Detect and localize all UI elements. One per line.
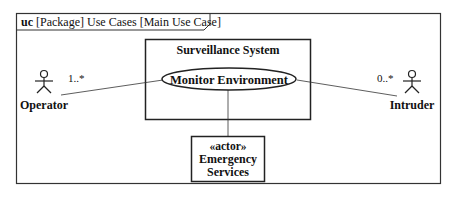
actor-block-label-line1: Emergency: [199, 152, 257, 166]
actor-leg-icon: [37, 86, 44, 93]
multiplicity-intruder: 0..*: [377, 72, 394, 84]
frame-title: uc[Package] Use Cases [Main Use Case]: [21, 15, 221, 29]
multiplicity-operator: 1..*: [68, 72, 85, 84]
frame-kind: uc: [21, 15, 34, 29]
system-boundary-label: Surveillance System: [177, 43, 280, 57]
frame-title-text: [Package] Use Cases [Main Use Case]: [36, 15, 221, 29]
use-case-diagram: uc[Package] Use Cases [Main Use Case] Su…: [0, 0, 453, 204]
actor-leg-icon: [412, 86, 419, 93]
actor-leg-icon: [44, 86, 51, 93]
actor-head-icon: [41, 71, 48, 78]
actor-intruder-label: Intruder: [390, 98, 435, 112]
actor-block-label-line2: Services: [207, 165, 249, 179]
actor-head-icon: [409, 71, 416, 78]
actor-operator[interactable]: [35, 71, 53, 94]
actor-operator-label: Operator: [20, 98, 69, 112]
use-case-label: Monitor Environment: [170, 73, 289, 87]
actor-stereotype: «actor»: [209, 140, 246, 152]
actor-leg-icon: [405, 86, 412, 93]
actor-intruder[interactable]: [403, 71, 421, 94]
